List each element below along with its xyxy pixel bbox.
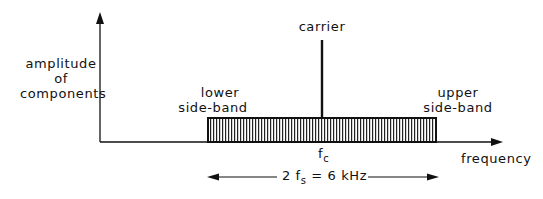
upper-sideband-line-2: side-band	[408, 100, 508, 115]
bandwidth-label: 2 fs = 6 kHz	[282, 168, 367, 184]
x-axis-label: frequency	[461, 151, 532, 166]
lower-sideband-line-1: lower	[168, 85, 258, 100]
y-axis-label-line-1: amplitude	[20, 56, 102, 71]
y-axis-label: amplitude of components	[20, 56, 102, 101]
upper-sideband-label: upper side-band	[408, 85, 508, 115]
bandwidth-suffix: = 6 kHz	[307, 168, 368, 183]
sideband-block	[208, 118, 436, 142]
y-axis-label-line-2: of	[20, 71, 102, 86]
bandwidth-prefix: 2 f	[282, 168, 301, 183]
carrier-frequency-label: fc	[318, 146, 329, 162]
y-axis-label-line-3: components	[20, 86, 102, 101]
upper-sideband-line-1: upper	[408, 85, 508, 100]
lower-sideband-label: lower side-band	[168, 85, 258, 115]
lower-sideband-line-2: side-band	[168, 100, 258, 115]
carrier-label: carrier	[292, 19, 352, 34]
fc-subscript: c	[323, 153, 329, 164]
bandwidth-subscript: s	[301, 175, 307, 186]
